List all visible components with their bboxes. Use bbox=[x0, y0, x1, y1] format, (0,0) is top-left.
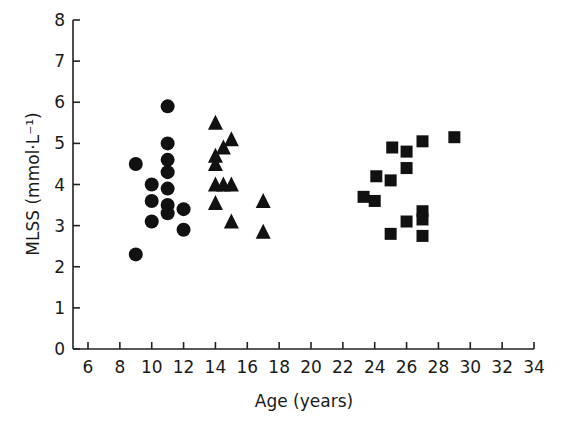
y-tick-label: 8 bbox=[54, 10, 65, 30]
square-marker bbox=[369, 195, 381, 207]
y-tick-label: 6 bbox=[54, 92, 65, 112]
x-tick-label: 16 bbox=[236, 357, 258, 377]
y-tick-label: 1 bbox=[54, 298, 65, 318]
y-tick-label: 4 bbox=[54, 175, 65, 195]
x-tick-label: 22 bbox=[332, 357, 354, 377]
circle-marker bbox=[161, 153, 175, 167]
x-tick-label: 28 bbox=[428, 357, 450, 377]
triangle-marker bbox=[208, 156, 223, 171]
square-marker bbox=[401, 216, 413, 228]
x-tick-label: 6 bbox=[83, 357, 94, 377]
square-marker bbox=[370, 170, 382, 182]
x-tick-label: 26 bbox=[396, 357, 418, 377]
x-tick-label: 14 bbox=[205, 357, 227, 377]
y-axis-ticks: 012345678 bbox=[54, 10, 80, 359]
x-tick-label: 12 bbox=[173, 357, 195, 377]
circle-marker bbox=[177, 223, 191, 237]
square-marker bbox=[417, 230, 429, 242]
circle-marker bbox=[161, 136, 175, 150]
square-marker bbox=[385, 228, 397, 240]
circle-marker bbox=[129, 247, 143, 261]
x-tick-label: 20 bbox=[300, 357, 322, 377]
y-tick-label: 0 bbox=[54, 339, 65, 359]
square-marker bbox=[417, 135, 429, 147]
circle-marker bbox=[145, 194, 159, 208]
circle-marker bbox=[161, 206, 175, 220]
x-tick-label: 24 bbox=[364, 357, 386, 377]
triangle-marker bbox=[224, 131, 239, 146]
y-axis-title: MLSS (mmol·L⁻¹) bbox=[23, 112, 43, 255]
square-marker bbox=[401, 162, 413, 174]
circle-marker bbox=[177, 202, 191, 216]
circle-marker bbox=[145, 178, 159, 192]
triangles-series bbox=[208, 115, 271, 239]
x-tick-label: 18 bbox=[268, 357, 290, 377]
circle-marker bbox=[145, 215, 159, 229]
y-tick-label: 3 bbox=[54, 216, 65, 236]
x-tick-label: 10 bbox=[141, 357, 163, 377]
x-axis-title: Age (years) bbox=[255, 391, 353, 411]
x-tick-label: 8 bbox=[114, 357, 125, 377]
circle-marker bbox=[161, 165, 175, 179]
data-points bbox=[129, 99, 461, 261]
square-marker bbox=[448, 131, 460, 143]
square-marker bbox=[385, 174, 397, 186]
axes bbox=[73, 20, 534, 349]
squares-series bbox=[358, 131, 461, 242]
square-marker bbox=[417, 213, 429, 225]
circles-series bbox=[129, 99, 191, 261]
scatter-chart: 012345678 6810121416182022242628303234 A… bbox=[0, 0, 566, 428]
triangle-marker bbox=[256, 193, 271, 208]
x-tick-label: 30 bbox=[459, 357, 481, 377]
y-tick-label: 5 bbox=[54, 133, 65, 153]
x-tick-label: 34 bbox=[523, 357, 545, 377]
square-marker bbox=[358, 191, 370, 203]
square-marker bbox=[386, 141, 398, 153]
circle-marker bbox=[161, 99, 175, 113]
triangle-marker bbox=[208, 115, 223, 130]
y-tick-label: 7 bbox=[54, 51, 65, 71]
triangle-marker bbox=[208, 195, 223, 210]
square-marker bbox=[401, 146, 413, 158]
x-tick-label: 32 bbox=[491, 357, 513, 377]
triangle-marker bbox=[224, 214, 239, 229]
circle-marker bbox=[161, 182, 175, 196]
triangle-marker bbox=[256, 224, 271, 239]
x-axis-ticks: 6810121416182022242628303234 bbox=[83, 342, 545, 377]
y-tick-label: 2 bbox=[54, 257, 65, 277]
circle-marker bbox=[129, 157, 143, 171]
